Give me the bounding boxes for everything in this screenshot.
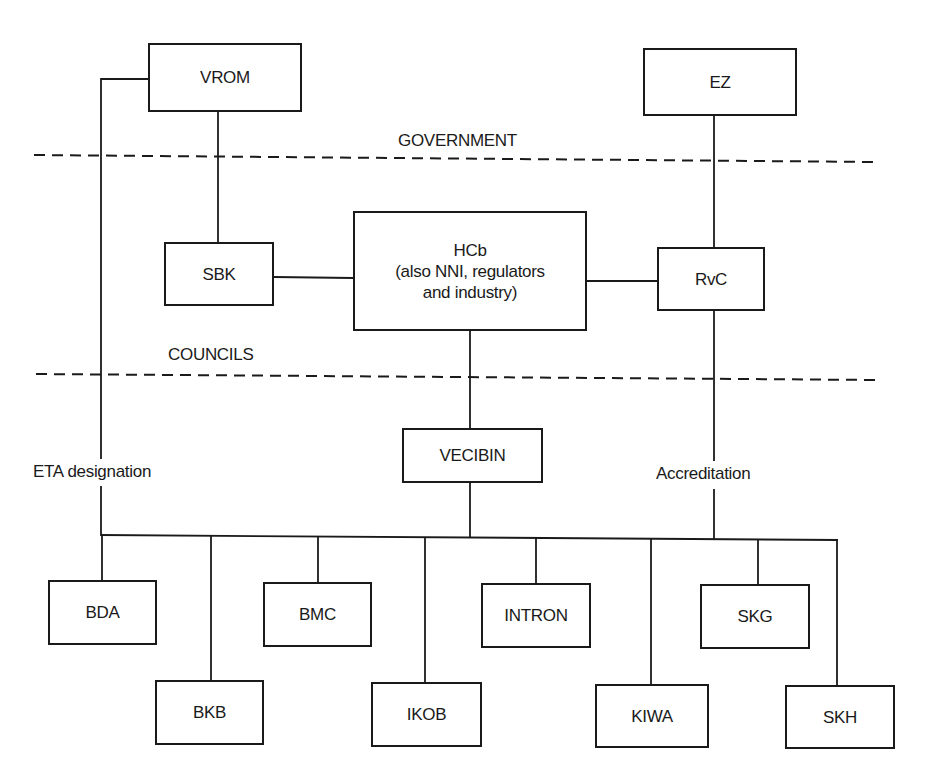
councils-boundary-line — [36, 374, 880, 380]
node-bmc-label: BMC — [299, 604, 336, 625]
eta-designation-label: ETA designation — [33, 462, 151, 482]
vrom-eta-connector — [101, 79, 148, 459]
node-bkb-label: BKB — [193, 702, 226, 723]
accreditation-label: Accreditation — [656, 464, 750, 484]
node-vecibin: VECIBIN — [402, 428, 543, 483]
government-zone-label: GOVERNMENT — [398, 131, 517, 151]
councils-zone-label: COUNCILS — [168, 345, 253, 365]
node-skg-label: SKG — [737, 606, 772, 627]
organization-diagram: GOVERNMENT COUNCILS ETA designation Accr… — [0, 0, 928, 779]
node-hcb-line3: and industry) — [423, 282, 517, 303]
node-kiwa-label: KIWA — [631, 706, 673, 727]
node-skh: SKH — [785, 685, 895, 749]
node-rvc-label: RvC — [695, 269, 727, 290]
node-vrom-label: VROM — [200, 67, 250, 88]
node-rvc: RvC — [657, 247, 765, 311]
node-intron: INTRON — [481, 583, 591, 648]
node-skg: SKG — [700, 584, 810, 649]
node-hcb: HCb (also NNI, regulators and industry) — [353, 211, 587, 331]
node-bda-label: BDA — [85, 602, 119, 623]
node-bmc: BMC — [263, 582, 372, 647]
node-bda: BDA — [48, 580, 157, 645]
node-hcb-title: HCb — [453, 240, 486, 261]
node-hcb-line2: (also NNI, regulators — [395, 261, 545, 282]
node-vrom: VROM — [148, 43, 302, 112]
node-ez: EZ — [643, 48, 797, 116]
node-ikob: IKOB — [371, 682, 482, 747]
sbk-hcb-connector — [274, 277, 353, 278]
node-vecibin-label: VECIBIN — [440, 445, 506, 466]
node-sbk-label: SBK — [202, 264, 235, 285]
node-sbk: SBK — [164, 242, 274, 306]
connector-lines — [0, 0, 928, 779]
node-ez-label: EZ — [709, 72, 730, 93]
node-bkb: BKB — [155, 680, 264, 745]
node-kiwa: KIWA — [595, 684, 709, 748]
node-intron-label: INTRON — [504, 605, 567, 626]
node-skh-label: SKH — [823, 707, 857, 728]
node-ikob-label: IKOB — [407, 704, 446, 725]
government-boundary-line — [34, 155, 877, 162]
